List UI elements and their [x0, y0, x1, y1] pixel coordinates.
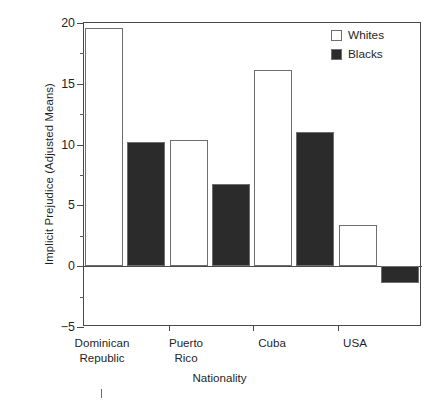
bar-blacks-usa: [381, 266, 419, 283]
legend: Whites Blacks: [331, 28, 384, 61]
y-tick-label-0: 0: [68, 259, 75, 273]
y-tick-label-5: 5: [68, 198, 75, 212]
y-tick-label-20: 20: [61, 16, 75, 30]
plot-area: 20 15 10 5 0 −5: [83, 22, 421, 326]
y-tick-label-15: 15: [61, 77, 75, 91]
bar-blacks-cuba: [296, 132, 334, 266]
scan-artifact-mark: [101, 389, 102, 398]
x-tick-label-usa: USA: [318, 336, 392, 351]
legend-item-whites: Whites: [331, 28, 384, 42]
x-tick-label-puerto-rico: Puerto Rico: [148, 336, 224, 365]
x-tick-label-dominican-republic: Dominican Republic: [62, 336, 142, 365]
bar-whites-dominican-republic: [85, 28, 123, 266]
x-tick-label-cuba: Cuba: [235, 336, 309, 351]
y-tick-label-minus5: −5: [61, 320, 75, 334]
x-axis-title: Nationality: [0, 371, 439, 384]
legend-label-blacks: Blacks: [348, 47, 383, 61]
x-tick-3: [338, 325, 339, 331]
legend-label-whites: Whites: [348, 28, 384, 42]
bar-whites-cuba: [254, 70, 292, 266]
legend-item-blacks: Blacks: [331, 47, 384, 61]
bar-blacks-dominican-republic: [127, 142, 165, 266]
y-axis-title: Implicit Prejudice (Adjusted Means): [43, 29, 55, 319]
legend-swatch-blacks-icon: [331, 49, 342, 60]
x-tick-2: [253, 325, 254, 331]
legend-swatch-whites-icon: [331, 30, 342, 41]
y-tick-label-10: 10: [61, 138, 75, 152]
x-tick-1: [169, 325, 170, 331]
bar-blacks-puerto-rico: [212, 184, 250, 267]
bar-whites-usa: [339, 225, 377, 266]
bar-chart-figure: Implicit Prejudice (Adjusted Means) 20 1…: [0, 0, 439, 404]
bar-whites-puerto-rico: [170, 140, 208, 266]
zero-baseline: [84, 266, 422, 267]
